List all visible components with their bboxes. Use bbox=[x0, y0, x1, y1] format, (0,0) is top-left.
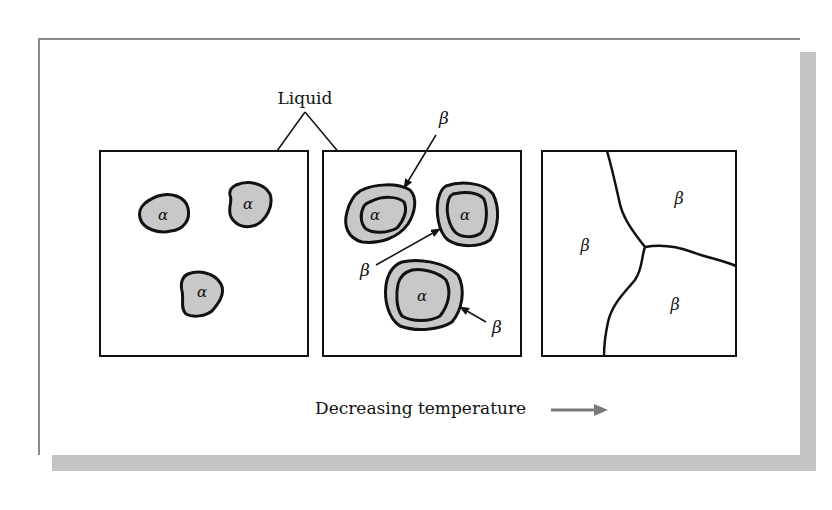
peritectic-diagram: Liquid α α α α α α β β β bbox=[0, 0, 832, 510]
beta-pointer-label: β bbox=[359, 260, 370, 280]
alpha-label: α bbox=[460, 206, 470, 224]
alpha-label: α bbox=[417, 287, 427, 305]
beta-grain-label: β bbox=[579, 236, 589, 255]
beta-pointer-label: β bbox=[438, 108, 449, 128]
right-arrow-icon bbox=[551, 404, 608, 416]
alpha-label: α bbox=[370, 206, 380, 224]
beta-pointer-label: β bbox=[491, 317, 502, 337]
panel-2: α α α β β β bbox=[323, 108, 521, 356]
alpha-label: α bbox=[158, 206, 168, 224]
panel-1: α α α bbox=[100, 151, 308, 356]
liquid-label: Liquid bbox=[278, 88, 333, 108]
beta-grain-label: β bbox=[669, 295, 679, 314]
alpha-label: α bbox=[243, 195, 253, 213]
beta-grain-label: β bbox=[673, 189, 683, 208]
panel-3: β β β bbox=[542, 151, 736, 356]
decreasing-temperature-label: Decreasing temperature bbox=[315, 398, 526, 418]
alpha-label: α bbox=[197, 283, 207, 301]
